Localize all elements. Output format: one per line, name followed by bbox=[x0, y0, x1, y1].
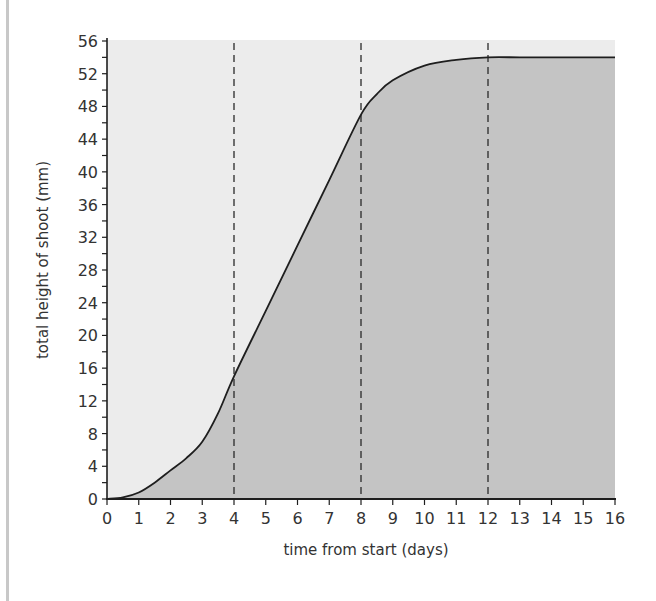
x-tick-label: 9 bbox=[388, 509, 398, 528]
y-tick-label: 16 bbox=[78, 359, 98, 378]
x-tick-label: 4 bbox=[229, 509, 239, 528]
y-tick-label: 48 bbox=[78, 97, 98, 116]
y-tick-label: 40 bbox=[78, 163, 98, 182]
y-axis-ticks: 048121620242832364044485256 bbox=[78, 32, 107, 509]
x-tick-label: 2 bbox=[165, 509, 175, 528]
x-tick-label: 0 bbox=[102, 509, 112, 528]
x-tick-label: 3 bbox=[197, 509, 207, 528]
y-tick-label: 36 bbox=[78, 196, 98, 215]
y-tick-label: 52 bbox=[78, 65, 98, 84]
y-tick-label: 20 bbox=[78, 326, 98, 345]
x-axis-title: time from start (days) bbox=[283, 541, 448, 559]
x-tick-label: 1 bbox=[134, 509, 144, 528]
x-tick-label: 11 bbox=[446, 509, 466, 528]
x-tick-label: 8 bbox=[356, 509, 366, 528]
y-tick-label: 8 bbox=[88, 425, 98, 444]
x-tick-label: 10 bbox=[414, 509, 434, 528]
x-tick-label: 7 bbox=[324, 509, 334, 528]
x-tick-label: 14 bbox=[541, 509, 561, 528]
y-axis-title: total height of shoot (mm) bbox=[34, 161, 52, 359]
x-tick-label: 5 bbox=[261, 509, 271, 528]
x-tick-label: 16 bbox=[605, 509, 625, 528]
y-tick-label: 12 bbox=[78, 392, 98, 411]
y-tick-label: 28 bbox=[78, 261, 98, 280]
y-tick-label: 56 bbox=[78, 32, 98, 51]
growth-curve-chart: 048121620242832364044485256 012345678910… bbox=[0, 0, 656, 601]
x-tick-label: 6 bbox=[292, 509, 302, 528]
y-tick-label: 4 bbox=[88, 457, 98, 476]
x-tick-label: 15 bbox=[573, 509, 593, 528]
y-tick-label: 0 bbox=[88, 490, 98, 509]
x-tick-label: 13 bbox=[510, 509, 530, 528]
y-tick-label: 24 bbox=[78, 294, 98, 313]
x-axis-ticks: 012345678910111213141516 bbox=[102, 499, 625, 528]
y-tick-label: 44 bbox=[78, 130, 98, 149]
y-tick-label: 32 bbox=[78, 228, 98, 247]
x-tick-label: 12 bbox=[478, 509, 498, 528]
